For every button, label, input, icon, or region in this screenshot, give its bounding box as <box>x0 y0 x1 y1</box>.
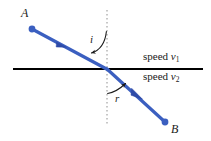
speed-upper-medium-label: speed v1 <box>143 51 179 62</box>
speed-upper-text: speed <box>143 50 168 62</box>
incident-ray-direction-arrow <box>56 42 66 47</box>
point-b-label: B <box>171 123 178 135</box>
speed-lower-subscript: 2 <box>176 75 180 84</box>
point-a-dot <box>29 26 36 33</box>
speed-upper-symbol: v <box>171 50 176 62</box>
point-b-dot <box>162 119 169 126</box>
angle-of-incidence-arc-arrow <box>92 32 107 54</box>
angle-of-incidence-label: i <box>90 34 93 45</box>
angle-of-refraction-label: r <box>115 93 119 104</box>
refraction-diagram: A B i r speed v1 speed v2 <box>0 0 211 141</box>
point-a-label: A <box>21 7 28 19</box>
speed-lower-text: speed <box>143 70 168 82</box>
speed-lower-symbol: v <box>171 70 176 82</box>
incident-ray <box>32 29 108 70</box>
speed-lower-medium-label: speed v2 <box>143 71 179 82</box>
speed-upper-subscript: 1 <box>176 55 180 64</box>
